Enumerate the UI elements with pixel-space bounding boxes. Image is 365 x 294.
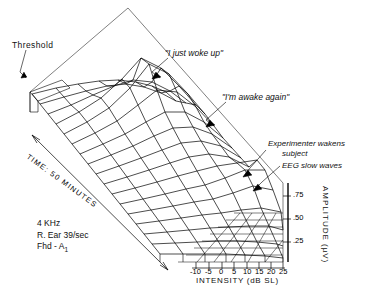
- xtick-neg10: -10: [190, 267, 201, 276]
- annotation-threshold: Threshold: [12, 40, 53, 50]
- ytick-25: .25: [293, 236, 303, 245]
- annotation-experimenter-line1: Experimenter wakens: [268, 139, 345, 148]
- param-ear-rate: R. Ear 39/sec: [37, 230, 89, 240]
- amplitude-ticks: [283, 196, 291, 242]
- param-montage: Fhd - A1: [37, 241, 68, 251]
- parameter-block: 4 KHz R. Ear 39/sec Fhd - A1: [37, 218, 89, 255]
- annotation-experimenter-line2: subject: [268, 149, 307, 159]
- axis-label-intensity: INTENSITY (dB SL): [196, 276, 279, 285]
- xtick-25: 25: [279, 267, 287, 276]
- axis-label-amplitude: AMPLITUDE (µV): [321, 186, 330, 263]
- xtick-neg5: -5: [205, 267, 212, 276]
- annotation-im-awake-again: "I'm awake again": [222, 92, 289, 102]
- xtick-5: 5: [232, 267, 236, 276]
- base-plate: [30, 80, 70, 112]
- annotation-experimenter-wakens-subject: Experimenter wakens subject: [268, 139, 345, 158]
- ytick-50: .50: [293, 213, 303, 222]
- ytick-75: .75: [293, 190, 303, 199]
- param-montage-subscript: 1: [64, 246, 68, 253]
- param-frequency: 4 KHz: [37, 218, 60, 228]
- xtick-20: 20: [267, 267, 275, 276]
- xtick-10: 10: [243, 267, 251, 276]
- annotation-eeg-slow-waves: EEG slow waves: [282, 161, 342, 170]
- figure-canvas: Threshold "I just woke up" "I'm awake ag…: [0, 0, 365, 294]
- xtick-15: 15: [255, 267, 263, 276]
- annotation-i-just-woke-up: "I just woke up": [165, 48, 223, 58]
- xtick-0: 0: [219, 267, 223, 276]
